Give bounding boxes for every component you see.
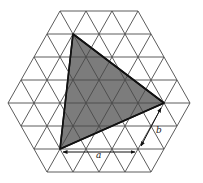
grid-line xyxy=(73,11,86,34)
grid-line xyxy=(47,80,60,103)
grid-line xyxy=(151,57,164,80)
grid-line xyxy=(112,11,125,34)
grid-line xyxy=(138,11,151,34)
grid-line xyxy=(8,103,21,126)
grid-line xyxy=(138,149,151,172)
grid-line xyxy=(47,57,60,80)
grid-line xyxy=(34,34,47,57)
grid-line xyxy=(151,34,164,57)
grid-line xyxy=(34,149,47,172)
grid-line xyxy=(47,103,60,126)
grid-line xyxy=(177,103,190,126)
grid-line xyxy=(34,80,47,103)
grid-line xyxy=(99,34,112,57)
grid-line xyxy=(34,57,47,80)
grid-line xyxy=(60,11,73,34)
grid-line xyxy=(21,103,34,126)
grid-line xyxy=(47,11,60,34)
grid-line xyxy=(8,80,21,103)
grid-line xyxy=(21,80,34,103)
grid-line xyxy=(34,103,47,126)
grid-line xyxy=(86,11,99,34)
grid-line xyxy=(125,11,138,34)
grid-line xyxy=(112,34,125,57)
grid-line xyxy=(138,57,151,80)
grid-line xyxy=(47,126,60,149)
grid-line xyxy=(125,34,138,57)
grid-line xyxy=(47,149,60,172)
grid-line xyxy=(164,80,177,103)
grid-line xyxy=(112,126,125,149)
grid-line xyxy=(164,103,177,126)
grid-line xyxy=(177,80,190,103)
grid-line xyxy=(125,57,138,80)
grid-line xyxy=(21,126,34,149)
grid-line xyxy=(138,34,151,57)
grid-line xyxy=(151,149,164,172)
grid-line xyxy=(21,57,34,80)
vector-b-label: b xyxy=(156,125,162,135)
grid-line xyxy=(99,11,112,34)
vector-a-label: a xyxy=(96,150,101,160)
triangular-lattice-diagram: ab xyxy=(0,0,203,183)
grid-line xyxy=(138,126,151,149)
grid-line xyxy=(47,34,60,57)
grid-line xyxy=(164,126,177,149)
grid-line xyxy=(164,57,177,80)
grid-line xyxy=(34,126,47,149)
grid-line xyxy=(125,126,138,149)
